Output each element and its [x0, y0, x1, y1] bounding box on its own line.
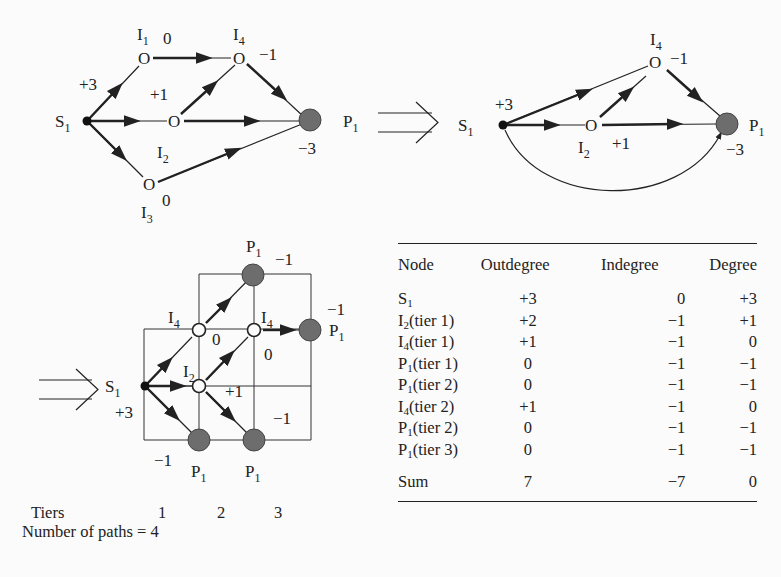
implies-arrow-icon: [39, 369, 98, 410]
cell-node: P1(tier 3): [398, 439, 481, 461]
cell-node: S1: [398, 288, 481, 310]
node-i2-circle: O: [585, 116, 597, 135]
label-i2-tier1: I2: [183, 362, 195, 385]
cell-outdegree: 0: [481, 417, 601, 439]
table-sum-row: Sum 7 −7 0: [398, 460, 757, 501]
label-p1-bottom-right: P1: [245, 462, 260, 485]
cell-sum-label: Sum: [398, 460, 481, 501]
cell-indegree: −1: [601, 353, 709, 375]
cell-sum-indegree: −7: [601, 460, 709, 501]
node-i4-circle: O: [649, 53, 661, 72]
value-i2-tier1: +1: [225, 382, 243, 401]
value-s1: +3: [115, 403, 133, 422]
label-s1: S1: [55, 112, 70, 135]
cell-degree: +1: [709, 310, 757, 332]
cell-degree: +3: [709, 288, 757, 310]
label-s1: S1: [105, 377, 120, 400]
value-p1: −3: [298, 139, 316, 158]
label-i2: I2: [157, 143, 169, 166]
value-i3: 0: [162, 191, 171, 210]
label-p1-top: P1: [246, 237, 261, 260]
cell-indegree: −1: [601, 396, 709, 418]
value-p1-bottom-right: −1: [273, 409, 291, 428]
label-i4-tier2: I4: [261, 308, 273, 331]
value-i1: 0: [163, 29, 172, 48]
label-p1-bottom-left: P1: [191, 462, 206, 485]
cell-indegree: −1: [601, 417, 709, 439]
cell-indegree: −1: [601, 310, 709, 332]
cell-node: P1(tier 2): [398, 374, 481, 396]
cell-node: I4(tier 2): [398, 396, 481, 418]
cell-indegree: 0: [601, 288, 709, 310]
top-right-graph: O O S1 +3 I4 −1 I2 +1 P1 −3: [458, 30, 764, 191]
top-left-graph: O O O O S1 I1 0 I4 −1 +3 +1 I2 P1 −3 0 I…: [55, 25, 358, 226]
node-s1: [141, 382, 150, 391]
node-i2-circle: O: [168, 112, 180, 131]
table-row: P1(tier 2) 0 −1 −1: [398, 417, 757, 439]
cell-degree: 0: [709, 331, 757, 353]
degree-table: Node Outdegree Indegree Degree S1 +3 0 +…: [398, 243, 757, 502]
label-p1-right: P1: [329, 321, 344, 344]
cell-node: P1(tier 1): [398, 353, 481, 375]
node-p1-bottom-right: [243, 429, 265, 451]
label-i4: I4: [233, 25, 245, 48]
value-p1: −3: [726, 140, 744, 159]
cell-indegree: −1: [601, 331, 709, 353]
implies-arrow-icon: [378, 102, 438, 143]
value-p1-right: −1: [327, 300, 345, 319]
tier-2-label: 2: [217, 503, 225, 523]
tiered-graph: P1 −1 −1 P1 I4 0 I4 0 I2 +1 S1 +3 −1 −1 …: [105, 237, 345, 485]
node-p1-top: [242, 264, 264, 286]
cell-degree: −1: [709, 439, 757, 461]
table-row: I4(tier 1) +1 −1 0: [398, 331, 757, 353]
cell-outdegree: +1: [481, 331, 601, 353]
cell-outdegree: 0: [481, 374, 601, 396]
cell-outdegree: +3: [481, 288, 601, 310]
cell-outdegree: 0: [481, 439, 601, 461]
table-header-row: Node Outdegree Indegree Degree: [398, 244, 757, 288]
tier-3-label: 3: [274, 503, 282, 523]
label-p1: P1: [343, 112, 358, 135]
label-i4: I4: [650, 30, 662, 53]
cell-degree: −1: [709, 374, 757, 396]
node-p1-bottom-left: [188, 429, 210, 451]
node-p1: [299, 109, 321, 131]
value-p1-top: −1: [275, 250, 293, 269]
cell-node: I4(tier 1): [398, 331, 481, 353]
node-i3-circle: O: [143, 175, 155, 194]
tiers-label: Tiers: [31, 503, 64, 523]
cell-outdegree: +2: [481, 310, 601, 332]
value-i4-tier1: 0: [212, 330, 221, 349]
node-i4-tier1: [193, 324, 206, 337]
value-i4-tier2: 0: [264, 345, 273, 364]
number-of-paths: Number of paths = 4: [22, 522, 159, 542]
value-s1-out: +3: [79, 75, 97, 94]
cell-outdegree: +1: [481, 396, 601, 418]
cell-degree: −1: [709, 353, 757, 375]
table-bottom-rule: [398, 501, 757, 502]
label-i2: I2: [578, 138, 590, 161]
header-degree: Degree: [709, 244, 757, 288]
node-i4-circle: O: [233, 49, 245, 68]
label-i1: I1: [137, 25, 149, 48]
value-p1-bottom-left: −1: [154, 451, 172, 470]
table-row: I2(tier 1) +2 −1 +1: [398, 310, 757, 332]
label-p1: P1: [749, 116, 764, 139]
value-i4: −1: [259, 45, 277, 64]
label-i4-tier1: I4: [168, 308, 180, 331]
cell-sum-outdegree: 7: [481, 460, 601, 501]
cell-node: I2(tier 1): [398, 310, 481, 332]
value-i2: +1: [612, 134, 630, 153]
node-p1: [716, 113, 738, 135]
value-mid: +1: [150, 85, 168, 104]
cell-indegree: −1: [601, 374, 709, 396]
label-s1: S1: [458, 116, 473, 139]
table-row: S1 +3 0 +3: [398, 288, 757, 310]
value-i4: −1: [670, 49, 688, 68]
value-s1: +3: [495, 95, 513, 114]
node-p1-right: [299, 319, 321, 341]
node-s1: [83, 117, 92, 126]
node-i4-tier2: [248, 324, 261, 337]
cell-indegree: −1: [601, 439, 709, 461]
table-row: P1(tier 2) 0 −1 −1: [398, 374, 757, 396]
